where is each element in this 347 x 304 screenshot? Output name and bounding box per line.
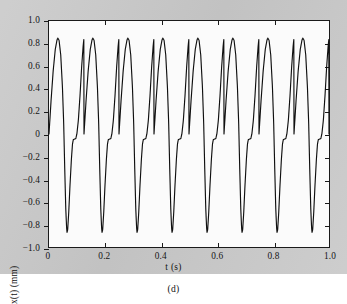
plot-area: [48, 20, 330, 248]
y-tick-label: 0.8: [0, 38, 40, 48]
y-tick-label: −0.4: [0, 175, 40, 185]
x-axis-title: t (s): [0, 262, 347, 272]
panel-caption: (d): [0, 283, 347, 294]
y-tick-label: 0.6: [0, 61, 40, 71]
y-tick-label: 1.0: [0, 15, 40, 25]
y-tick-mark: [44, 249, 49, 250]
waveform-plot: [49, 21, 329, 247]
waveform-curve-series-0: [49, 38, 329, 232]
x-tick-label: 0.8: [254, 251, 294, 261]
y-axis-title-wrapper: x(t) (mm): [11, 196, 12, 197]
x-tick-label: 0.6: [197, 251, 237, 261]
y-tick-label: 0.4: [0, 83, 40, 93]
y-tick-label: 0.2: [0, 106, 40, 116]
y-tick-label: −0.2: [0, 152, 40, 162]
x-tick-label: 0.2: [84, 251, 124, 261]
y-tick-label: −0.6: [0, 197, 40, 207]
x-tick-label: 1.0: [310, 251, 347, 261]
y-tick-label: −0.8: [0, 220, 40, 230]
y-tick-label: 0: [0, 129, 40, 139]
x-tick-label: 0.4: [141, 251, 181, 261]
x-tick-label: 0: [28, 251, 68, 261]
